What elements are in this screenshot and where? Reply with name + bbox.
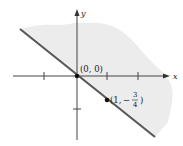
origin-label: (0, 0) [80,64,103,74]
y-axis-label: y [80,9,86,18]
svg-text:4: 4 [133,101,138,109]
origin-point [75,74,80,79]
shaded-half-plane [20,23,173,137]
half-plane-diagram: x y (0, 0) (1, − 3 4 ) [0,0,183,146]
svg-text:−: − [123,95,130,105]
x-axis-label: x [173,72,178,81]
point-1-neg-3-4 [105,98,110,103]
svg-text:3: 3 [133,91,137,99]
svg-text:(1,: (1, [110,95,121,105]
svg-text:): ) [140,95,143,105]
